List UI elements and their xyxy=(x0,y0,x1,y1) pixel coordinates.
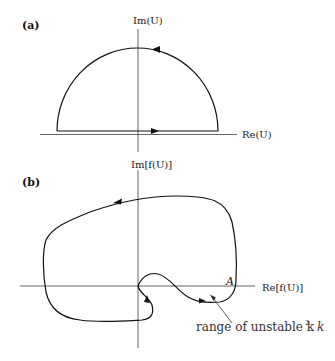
arrow-right-icon xyxy=(151,128,159,134)
mapped-contour xyxy=(43,196,236,322)
panel-b-label: (b) xyxy=(22,176,40,189)
panel-b-y-axis-label: Im[f(U)] xyxy=(131,159,172,170)
panel-a-label: (a) xyxy=(22,19,40,32)
annotation-k: k xyxy=(317,320,324,334)
panel-a: (a) Im(U) Re(U) xyxy=(22,15,272,152)
point-a-label: A xyxy=(225,275,234,288)
annotation-superscript: 2 xyxy=(305,318,310,327)
semicircle-contour xyxy=(57,48,218,131)
annotation-main: range of unstable k xyxy=(196,320,315,334)
panel-b: (b) Im[f(U)] Re[f(U)] A range of unstabl… xyxy=(20,159,324,348)
panel-a-x-axis-label: Re(U) xyxy=(242,129,272,140)
figure-canvas: (a) Im(U) Re(U) (b) Im[f(U)] Re[f(U)] A … xyxy=(0,0,335,361)
panel-a-y-axis-label: Im(U) xyxy=(133,15,163,26)
annotation-arrowhead-icon xyxy=(210,295,216,302)
arrow-left-icon xyxy=(152,46,160,53)
arrow-top-icon xyxy=(113,199,122,205)
panel-b-x-axis-label: Re[f(U)] xyxy=(262,282,303,293)
